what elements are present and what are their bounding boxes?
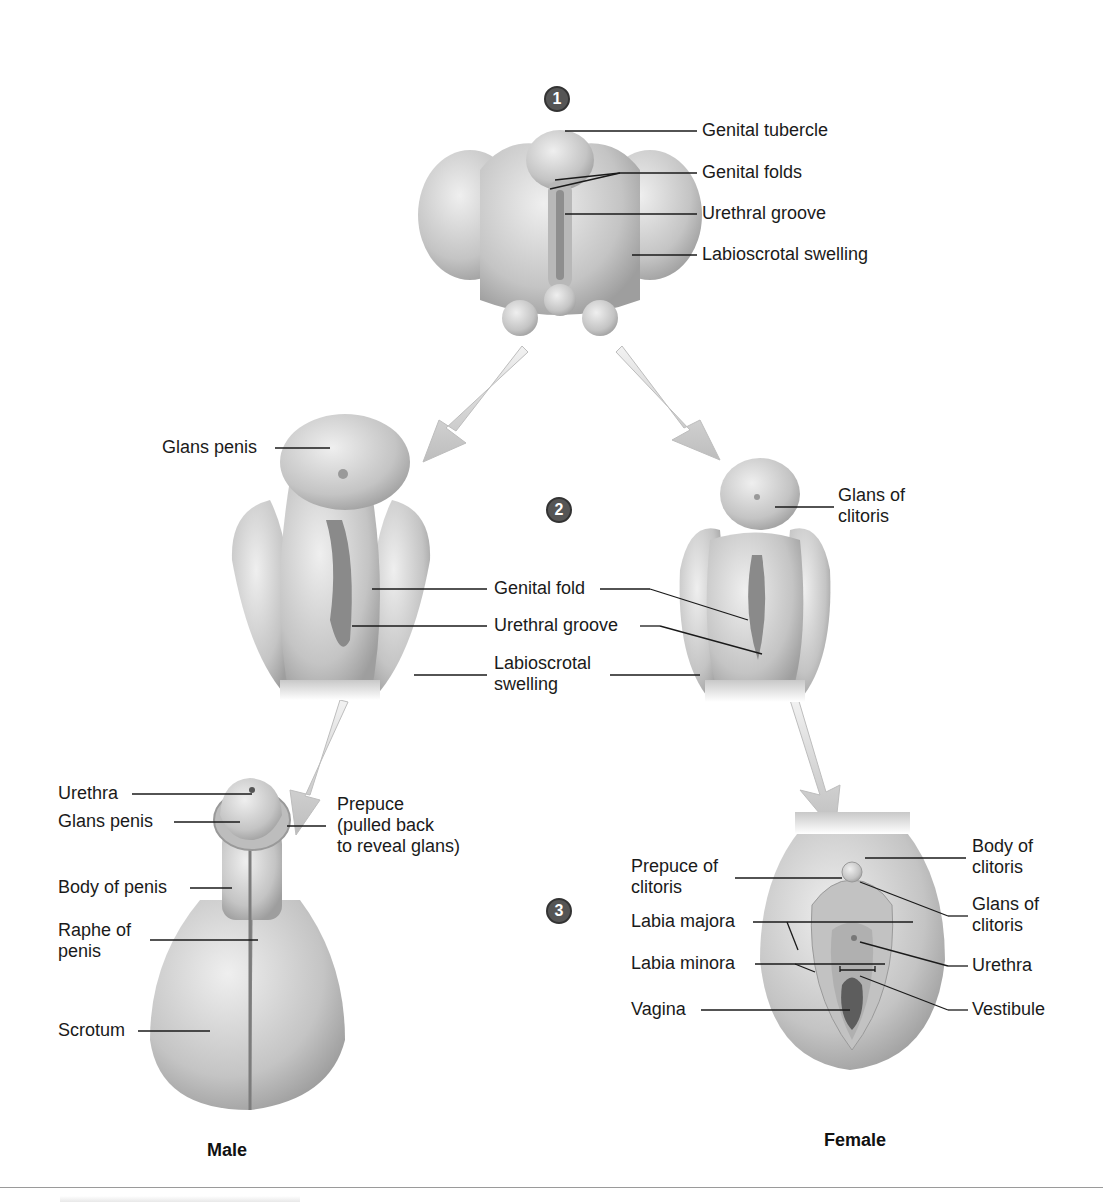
label-urethra-male: Urethra (58, 783, 118, 804)
label-genital-fold: Genital fold (494, 578, 585, 599)
stage-badge-1: 1 (544, 86, 570, 112)
label-prepuce-of-clitoris: Prepuce of clitoris (631, 856, 718, 898)
label-labia-majora: Labia majora (631, 911, 735, 932)
stage3-female-illustration (760, 812, 945, 1070)
label-glans-penis-stage2: Glans penis (162, 437, 257, 458)
label-vagina: Vagina (631, 999, 686, 1020)
label-labioscrotal-swelling: Labioscrotal swelling (702, 244, 868, 265)
caption-male: Male (207, 1140, 247, 1161)
label-glans-of-clitoris: Glans of clitoris (972, 894, 1039, 936)
label-urethral-groove-stage2: Urethral groove (494, 615, 618, 636)
stage-badge-3: 3 (546, 898, 572, 924)
diagram-canvas (0, 0, 1103, 1202)
stage-badge-2: 2 (546, 497, 572, 523)
arrow-female-3 (790, 698, 840, 832)
label-urethra-female: Urethra (972, 955, 1032, 976)
arrow-to-male (423, 346, 528, 462)
label-vestibule: Vestibule (972, 999, 1045, 1020)
stage2-male-illustration (232, 414, 430, 700)
label-glans-penis: Glans penis (58, 811, 153, 832)
label-body-of-penis: Body of penis (58, 877, 167, 898)
label-scrotum: Scrotum (58, 1020, 125, 1041)
label-prepuce: Prepuce (pulled back to reveal glans) (337, 794, 460, 857)
stage2-female-illustration (680, 458, 831, 702)
figure-divider (0, 1187, 1103, 1188)
label-urethral-groove: Urethral groove (702, 203, 826, 224)
stage1-illustration (418, 130, 702, 336)
label-body-of-clitoris: Body of clitoris (972, 836, 1033, 878)
label-genital-folds: Genital folds (702, 162, 802, 183)
label-labioscrotal-swelling-stage2: Labioscrotal swelling (494, 653, 591, 695)
label-glans-of-clitoris-stage2: Glans of clitoris (838, 485, 905, 527)
arrow-to-female (616, 346, 720, 460)
cropped-figure-title (60, 1196, 300, 1202)
label-raphe-of-penis: Raphe of penis (58, 920, 131, 962)
label-genital-tubercle: Genital tubercle (702, 120, 828, 141)
caption-female: Female (824, 1130, 886, 1151)
label-labia-minora: Labia minora (631, 953, 735, 974)
stage3-male-illustration (150, 778, 345, 1110)
